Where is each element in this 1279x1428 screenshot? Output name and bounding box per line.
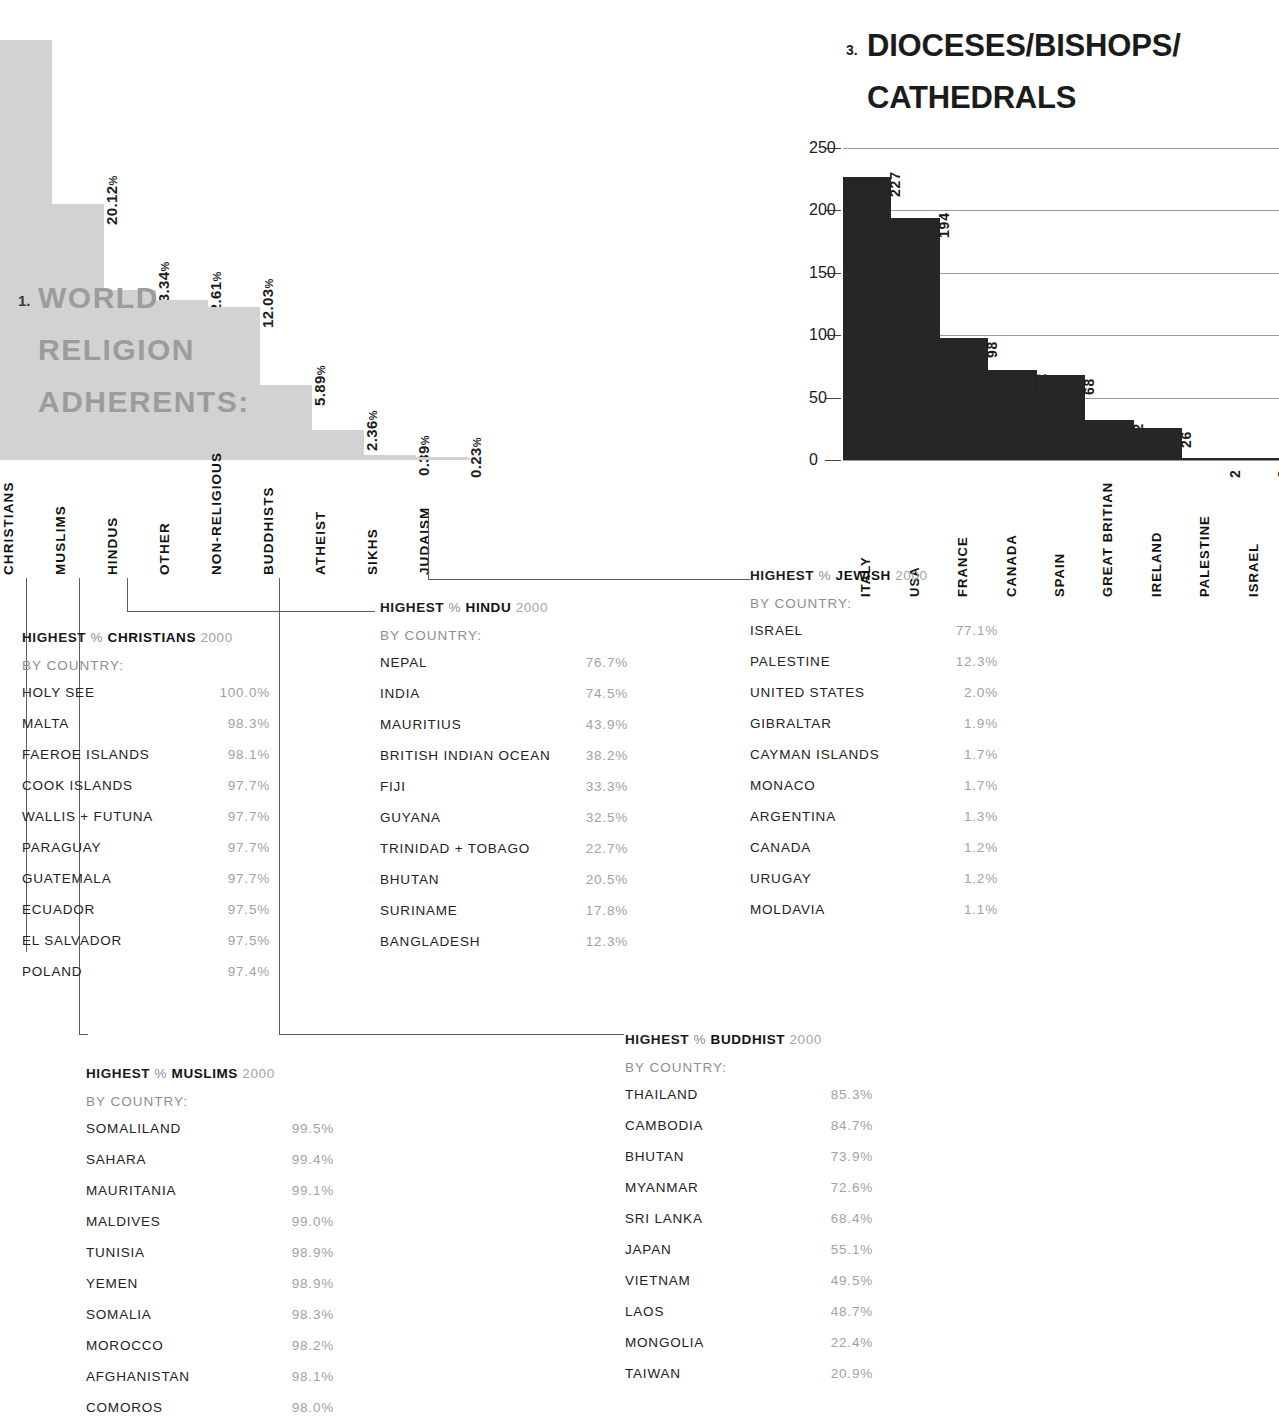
list-item-country: COMOROS [86,1400,163,1415]
list-item: JAPAN55.1% [625,1242,873,1273]
chart1-x-label: NON-RELIGIOUS [209,452,224,575]
heading-year: 2000 [242,1066,274,1081]
chart3-value-label: 2 [1227,469,1243,478]
chart3-gridline [843,148,1279,149]
list-item-value: 98.2% [292,1338,334,1353]
list-item: MAURITIUS43.9% [380,717,628,748]
chart1-x-label: BUDDHISTS [261,486,276,575]
list-subheading: BY COUNTRY: [86,1094,334,1109]
list-item: FAEROE ISLANDS98.1% [22,747,270,778]
list-highest-hindu: HIGHEST % HINDU 2000BY COUNTRY:NEPAL76.7… [380,600,628,965]
list-item-country: BRITISH INDIAN OCEAN [380,748,551,763]
list-item-country: TUNISIA [86,1245,145,1260]
list-item-value: 33.3% [586,779,628,794]
list-subheading: BY COUNTRY: [750,596,998,611]
list-item-country: SRI LANKA [625,1211,703,1226]
list-item: WALLIS + FUTUNA97.7% [22,809,270,840]
list-item: SOMALIA98.3% [86,1307,334,1338]
heading-highest: HIGHEST [86,1066,155,1081]
list-item-value: 98.1% [228,747,270,762]
dioceses-bishops-cathedrals-chart: 3. DIOCESES/BISHOPS/ CATHEDRALS 05010015… [745,0,1279,580]
list-item: SOMALILAND99.5% [86,1121,334,1152]
list-item: SAHARA99.4% [86,1152,334,1183]
heading-percent-sign: % [91,630,108,645]
heading-religion: JEWISH [836,568,896,583]
list-item: MALDIVES99.0% [86,1214,334,1245]
chart3-x-label: IRELAND [1149,532,1164,597]
connector-judaism-v [428,510,429,580]
list-item-country: HOLY SEE [22,685,95,700]
list-subheading: BY COUNTRY: [380,628,628,643]
list-item-country: MOROCCO [86,1338,164,1353]
chart3-value-label: 227 [887,171,903,197]
list-item-value: 1.7% [964,747,998,762]
heading-religion: MUSLIMS [172,1066,243,1081]
list-item-country: THAILAND [625,1087,698,1102]
list-item: BHUTAN73.9% [625,1149,873,1180]
list-item: TAIWAN20.9% [625,1366,873,1397]
list-item-value: 99.1% [292,1183,334,1198]
chart1-x-label: JUDAISM [417,507,432,575]
list-item: CAYMAN ISLANDS1.7% [750,747,998,778]
list-item-value: 97.5% [228,933,270,948]
list-item: GIBRALTAR1.9% [750,716,998,747]
heading-religion: CHRISTIANS [108,630,201,645]
connector-judaism-h [428,579,750,580]
list-item-country: LAOS [625,1304,664,1319]
list-item: ISRAEL77.1% [750,623,998,654]
chart3-bar [1182,458,1230,460]
chart3-bar [891,218,939,460]
list-item-value: 97.7% [228,871,270,886]
chart3-value-label: 68 [1081,378,1097,395]
list-item: SRI LANKA68.4% [625,1211,873,1242]
list-item-value: 72.6% [831,1180,873,1195]
list-item: FIJI33.3% [380,779,628,810]
list-item: AFGHANISTAN98.1% [86,1369,334,1400]
chart3-x-label: SPAIN [1052,553,1067,597]
list-item-country: TAIWAN [625,1366,681,1381]
list-item-value: 98.1% [292,1369,334,1384]
list-item: INDIA74.5% [380,686,628,717]
chart3-bar [843,177,891,460]
list-item-value: 84.7% [831,1118,873,1133]
list-item-country: SOMALIA [86,1307,152,1322]
chart3-value-label: 2 [1275,469,1279,478]
list-item-value: 2.0% [964,685,998,700]
list-heading: HIGHEST % HINDU 2000 [380,600,628,615]
chart3-gridline [843,210,1279,211]
heading-percent-sign: % [819,568,836,583]
list-item-value: 98.9% [292,1276,334,1291]
list-item-country: FAEROE ISLANDS [22,747,150,762]
chart3-x-label: GREAT BRITIAN [1100,482,1115,597]
heading-percent-sign: % [155,1066,172,1081]
list-item-value: 98.0% [292,1400,334,1415]
list-item-value: 1.3% [964,809,998,824]
list-heading: HIGHEST % JEWISH 2000 [750,568,998,583]
list-item-value: 1.1% [964,902,998,917]
heading-year: 2000 [516,600,548,615]
list-item-value: 20.9% [831,1366,873,1381]
chart3-gridline [843,460,1279,461]
connector-buddhists-v [279,578,280,1035]
chart3-tickmark [825,398,841,399]
list-item: YEMEN98.9% [86,1276,334,1307]
list-item-country: EL SALVADOR [22,933,122,948]
list-item-value: 1.7% [964,778,998,793]
list-item-value: 77.1% [956,623,998,638]
chart1-x-label: MUSLIMS [53,505,68,575]
list-item: MALTA98.3% [22,716,270,747]
list-item-value: 97.5% [228,902,270,917]
list-item: POLAND97.4% [22,964,270,995]
list-item-value: 97.7% [228,840,270,855]
list-item-country: BANGLADESH [380,934,480,949]
list-item-value: 1.2% [964,871,998,886]
list-item-country: JAPAN [625,1242,672,1257]
list-item: MOROCCO98.2% [86,1338,334,1369]
chart3-x-label: PALESTINE [1197,515,1212,597]
list-item-country: AFGHANISTAN [86,1369,190,1384]
list-highest-christians: HIGHEST % CHRISTIANS 2000BY COUNTRY:HOLY… [22,630,270,995]
list-item-country: CANADA [750,840,811,855]
list-item: UNITED STATES2.0% [750,685,998,716]
list-item-country: GUYANA [380,810,441,825]
list-item: MONGOLIA22.4% [625,1335,873,1366]
